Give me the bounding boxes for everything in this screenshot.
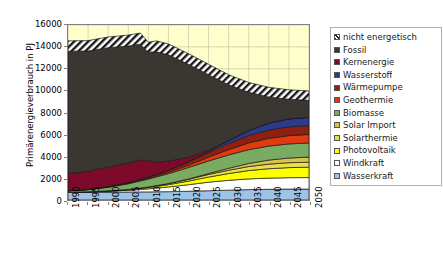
x-tick-mark: [67, 202, 68, 205]
legend-item-label: Wasserstoff: [343, 69, 392, 82]
solid-swatch: [334, 148, 340, 154]
y-tick-label: 12000: [18, 63, 62, 73]
y-tick-label: 8000: [18, 108, 62, 118]
solid-swatch: [334, 122, 340, 128]
x-tick-label: 1990: [71, 186, 81, 208]
y-tick-label: 16000: [18, 19, 62, 29]
legend-item[interactable]: Wasserkraft: [334, 170, 439, 183]
plot-area: [67, 24, 310, 201]
legend-item[interactable]: Wasserstoff: [334, 69, 439, 82]
solid-swatch: [334, 97, 340, 103]
legend-item-label: nicht energetisch: [343, 31, 417, 44]
legend-item-label: Photovoltaik: [343, 144, 396, 157]
x-tick-mark: [128, 202, 129, 205]
legend-item-label: Wasserkraft: [343, 170, 393, 183]
y-tick-label: 14000: [18, 41, 62, 51]
x-tick-mark: [148, 202, 149, 205]
x-tick-mark: [290, 202, 291, 205]
chart-legend: nicht energetischFossilKernenergieWasser…: [330, 27, 442, 186]
x-tick-label: 2005: [131, 186, 141, 208]
legend-item-label: Windkraft: [343, 157, 384, 170]
legend-item[interactable]: Fossil: [334, 44, 439, 57]
legend-item-label: Fossil: [343, 44, 366, 57]
x-tick-label: 2040: [273, 186, 283, 208]
y-tick-label: 10000: [18, 85, 62, 95]
x-tick-mark: [249, 202, 250, 205]
x-tick-label: 2030: [233, 186, 243, 208]
legend-item[interactable]: Solar Import: [334, 119, 439, 132]
legend-item[interactable]: Kernenergie: [334, 56, 439, 69]
x-tick-label: 2015: [172, 186, 182, 208]
y-axis-tick-labels: 1600014000120001000080006000400020000: [18, 24, 62, 201]
legend-item[interactable]: Windkraft: [334, 157, 439, 170]
x-tick-mark: [270, 202, 271, 205]
solid-swatch: [334, 160, 340, 166]
solid-swatch: [334, 110, 340, 116]
x-tick-label: 1995: [91, 186, 101, 208]
x-tick-mark: [87, 202, 88, 205]
legend-item[interactable]: Biomasse: [334, 107, 439, 120]
solid-swatch: [334, 47, 340, 53]
legend-item[interactable]: Geothermie: [334, 94, 439, 107]
legend-item[interactable]: nicht energetisch: [334, 31, 439, 44]
x-tick-label: 2010: [152, 186, 162, 208]
x-tick-label: 2045: [293, 186, 303, 208]
y-tick-label: 0: [18, 196, 62, 206]
legend-item-label: Solarthermie: [343, 132, 398, 145]
legend-item[interactable]: Solarthermie: [334, 132, 439, 145]
x-tick-label: 2020: [192, 186, 202, 208]
y-tick-label: 4000: [18, 152, 62, 162]
x-tick-label: 2035: [253, 186, 263, 208]
hatched-swatch: [334, 34, 340, 40]
solid-swatch: [334, 135, 340, 141]
solid-swatch: [334, 85, 340, 91]
x-tick-label: 2000: [111, 186, 121, 208]
x-axis-tick-labels: 1990199520002005201020152020202520302035…: [67, 202, 310, 256]
y-tick-label: 6000: [18, 130, 62, 140]
y-tick-label: 2000: [18, 174, 62, 184]
area-series-group: [68, 33, 309, 200]
legend-item-label: Biomasse: [343, 107, 384, 120]
x-tick-label: 2025: [212, 186, 222, 208]
x-tick-mark: [189, 202, 190, 205]
legend-item[interactable]: Wärmepumpe: [334, 81, 439, 94]
solid-swatch: [334, 59, 340, 65]
x-tick-label: 2050: [314, 186, 324, 208]
legend-item[interactable]: Photovoltaik: [334, 144, 439, 157]
primary-energy-consumption-chart: Primärenergieverbrauch in PJ 16000140001…: [0, 0, 443, 256]
solid-swatch: [334, 173, 340, 179]
x-tick-mark: [310, 202, 311, 205]
x-tick-mark: [168, 202, 169, 205]
legend-item-label: Wärmepumpe: [343, 81, 403, 94]
legend-item-label: Solar Import: [343, 119, 396, 132]
legend-item-label: Geothermie: [343, 94, 393, 107]
stacked-area-plot: [68, 25, 309, 200]
x-tick-mark: [209, 202, 210, 205]
legend-item-label: Kernenergie: [343, 56, 394, 69]
x-tick-mark: [229, 202, 230, 205]
x-tick-mark: [108, 202, 109, 205]
solid-swatch: [334, 72, 340, 78]
